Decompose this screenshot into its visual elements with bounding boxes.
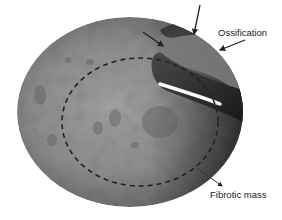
ossification-label: Ossification: [218, 28, 267, 38]
fibrotic-mass-label: Fibrotic mass: [210, 190, 266, 200]
scope-view: [17, 0, 250, 220]
ossification-arrow-top: [194, 5, 200, 34]
ossification-arrow-right: [220, 40, 245, 50]
